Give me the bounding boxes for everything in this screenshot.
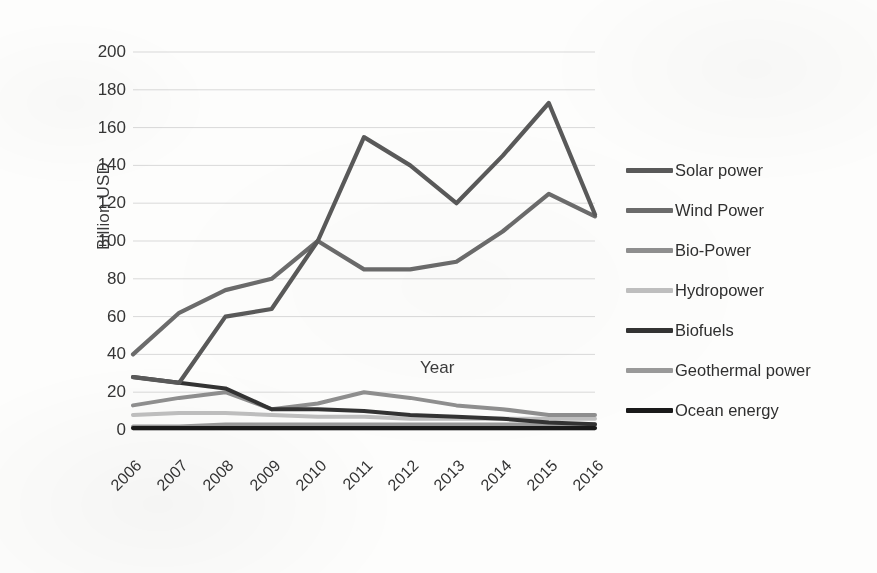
series-line (133, 194, 595, 355)
line-chart-figure: Billion USD 020406080100120140160180200 … (0, 0, 877, 573)
plot-area (0, 0, 877, 573)
series-line (133, 424, 595, 426)
x-axis-title: Year (420, 358, 454, 378)
gridlines (133, 52, 595, 430)
series-lines (133, 103, 595, 428)
series-line (133, 103, 595, 383)
chart-page: Billion USD 020406080100120140160180200 … (0, 0, 877, 573)
